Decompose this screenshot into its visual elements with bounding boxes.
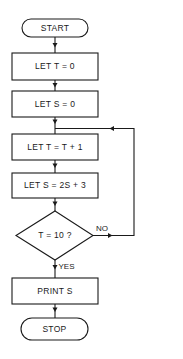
flowchart: START LET T = 0 LET S = 0 LET T = T + 1 …: [0, 0, 183, 359]
arrow-down-icon: [53, 164, 58, 169]
arrow-right-icon: [108, 233, 113, 238]
process-init-s: LET S = 0: [12, 91, 98, 117]
process-print: PRINT S: [12, 278, 98, 304]
yes-label: YES: [59, 262, 75, 271]
start-terminator: START: [22, 19, 88, 37]
process-init-t: LET T = 0: [12, 53, 98, 80]
stop-label: STOP: [42, 324, 66, 334]
arrow-inc-t-to-update-s: [53, 160, 58, 173]
no-label: NO: [96, 224, 108, 233]
stop-terminator: STOP: [21, 318, 88, 340]
arrow-print-to-stop: [53, 304, 58, 318]
arrow-down-icon: [53, 308, 58, 313]
decision-check: T = 10 ?: [16, 211, 93, 260]
process-label: PRINT S: [37, 286, 73, 296]
process-label: LET S = 0: [35, 99, 76, 109]
start-label: START: [41, 23, 70, 33]
arrow-down-icon: [53, 265, 58, 270]
arrow-update-s-to-check: [53, 198, 58, 211]
process-label: LET S = 2S + 3: [24, 180, 86, 190]
process-update-s: LET S = 2S + 3: [12, 173, 98, 198]
arrow-down-icon: [53, 83, 58, 88]
process-inc-t: LET T = T + 1: [12, 134, 98, 160]
arrow-down-icon: [53, 43, 58, 48]
arrow-down-icon: [53, 120, 58, 125]
edge-yes: YES: [53, 260, 75, 278]
process-label: LET T = 0: [35, 61, 75, 71]
arrow-down-icon: [53, 202, 58, 207]
decision-label: T = 10 ?: [38, 230, 72, 240]
process-label: LET T = T + 1: [27, 142, 83, 152]
arrow-init-s-to-inc-t: [53, 117, 58, 134]
arrow-left-icon: [110, 126, 115, 131]
arrow-init-t-to-init-s: [53, 80, 58, 91]
arrow-start-to-init-t: [53, 37, 58, 53]
